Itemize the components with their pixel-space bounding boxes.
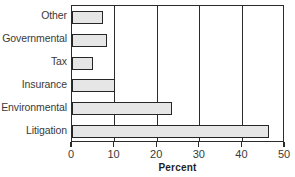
category-label-insurance: Insurance	[0, 79, 67, 90]
bar-row	[72, 75, 115, 98]
x-tick-mark	[70, 142, 71, 147]
bar-tax	[72, 57, 93, 70]
category-label-litigation: Litigation	[0, 125, 67, 136]
x-tick-mark	[241, 142, 242, 147]
category-label-environmental: Environmental	[0, 102, 67, 113]
x-tick-mark	[113, 142, 114, 147]
bar-litigation	[72, 125, 269, 138]
x-tick-label: 30	[184, 148, 214, 160]
x-axis-title: Percent	[71, 162, 284, 173]
bar-row	[72, 29, 107, 52]
x-tick-label: 20	[141, 148, 171, 160]
bar-insurance	[72, 79, 115, 92]
category-label-other: Other	[0, 10, 67, 21]
x-tick-label: 50	[269, 148, 295, 160]
bar-row	[72, 6, 103, 29]
x-tick-label: 10	[99, 148, 129, 160]
x-tick-mark	[156, 142, 157, 147]
bar-environmental	[72, 102, 172, 115]
category-label-governmental: Governmental	[0, 33, 67, 44]
x-tick-label: 0	[56, 148, 86, 160]
plot-area	[71, 5, 284, 142]
x-tick-mark	[283, 142, 284, 147]
bar-row	[72, 120, 269, 143]
x-tick-label: 40	[226, 148, 256, 160]
bar-chart: OtherGovernmentalTaxInsuranceEnvironment…	[0, 0, 295, 177]
bar-other	[72, 11, 103, 24]
bar-row	[72, 52, 93, 75]
bar-governmental	[72, 34, 107, 47]
category-label-tax: Tax	[0, 56, 67, 67]
cropped-title-remnant	[18, 0, 168, 4]
x-tick-mark	[198, 142, 199, 147]
bar-row	[72, 97, 172, 120]
